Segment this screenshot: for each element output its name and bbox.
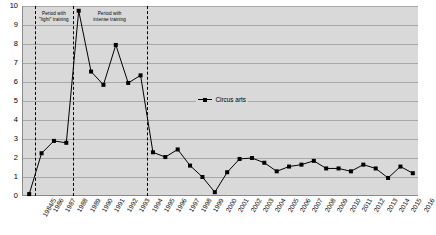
data-point-marker [176, 147, 180, 151]
data-point-marker [349, 169, 353, 173]
y-axis-tick-label: 5 [14, 97, 18, 105]
data-point-marker [163, 155, 167, 159]
data-point-marker [188, 164, 192, 168]
y-axis-tick-label: 3 [14, 135, 18, 143]
x-axis-tick-label: 2008 [323, 197, 336, 213]
data-point-marker [386, 176, 390, 180]
data-point-marker [324, 166, 328, 170]
x-axis-tick-label: 2015 [410, 197, 423, 213]
legend-marker-icon [198, 99, 212, 100]
data-point-marker [238, 157, 242, 161]
data-point-marker [299, 163, 303, 167]
x-axis-tick-label: 1993 [138, 197, 151, 213]
x-axis-tick-label: 1988 [76, 197, 89, 213]
y-axis: 012345678910 [0, 6, 20, 196]
x-axis-tick-label: 2002 [249, 197, 262, 213]
x-axis-tick-label: 2003 [261, 197, 274, 213]
data-point-marker [225, 170, 229, 174]
data-point-marker [262, 161, 266, 165]
data-point-marker [374, 166, 378, 170]
data-point-marker [151, 150, 155, 154]
x-axis-tick-label: 2014 [397, 197, 410, 213]
y-axis-tick-label: 9 [14, 21, 18, 29]
data-point-marker [139, 73, 143, 77]
x-axis-tick-label: 2009 [336, 197, 349, 213]
x-axis-tick-label: 1996 [175, 197, 188, 213]
data-point-marker [250, 156, 254, 160]
data-point-marker [398, 165, 402, 169]
x-axis-tick-label: 1989 [88, 197, 101, 213]
legend: Circus arts [196, 95, 248, 104]
y-axis-tick-label: 0 [14, 192, 18, 200]
x-axis-tick-label: 1997 [187, 197, 200, 213]
data-point-marker [361, 163, 365, 167]
legend-label-circus-arts: Circus arts [215, 96, 246, 103]
data-point-marker [89, 70, 93, 74]
data-point-marker [64, 141, 68, 145]
data-point-marker [200, 175, 204, 179]
x-axis-tick-label: 2010 [348, 197, 361, 213]
x-axis-tick-label: 2004 [274, 197, 287, 213]
data-point-marker [287, 165, 291, 169]
annotation-light-training: Period with "light" training [35, 11, 72, 23]
data-point-marker [411, 171, 415, 175]
x-axis-tick-label: 1992 [125, 197, 138, 213]
data-point-marker [40, 151, 44, 155]
data-point-marker [312, 159, 316, 163]
x-axis-tick-label: 2012 [373, 197, 386, 213]
data-point-marker [101, 83, 105, 87]
x-axis-tick-label: 1994 [150, 197, 163, 213]
x-axis-tick-label: 1998 [199, 197, 212, 213]
x-axis-tick-label: 2001 [237, 197, 250, 213]
x-axis-tick-label: 1995 [162, 197, 175, 213]
x-axis-tick-label: 2005 [286, 197, 299, 213]
y-axis-tick-label: 7 [14, 59, 18, 67]
data-point-marker [126, 81, 130, 85]
y-axis-tick-label: 2 [14, 154, 18, 162]
data-point-marker [52, 139, 56, 143]
x-axis-tick-label: 1987 [63, 197, 76, 213]
x-axis-tick-label: 1991 [113, 197, 126, 213]
x-axis-tick-label: 2013 [385, 197, 398, 213]
x-axis-tick-label: 2016 [422, 197, 435, 213]
x-axis-tick-label: 1999 [212, 197, 225, 213]
x-axis-tick-label: 2007 [311, 197, 324, 213]
x-axis: 1984/51986198719881989199019911992199319… [22, 197, 418, 235]
x-axis-tick-label: 1990 [100, 197, 113, 213]
x-axis-tick-label: 2006 [298, 197, 311, 213]
y-axis-tick-label: 1 [14, 173, 18, 181]
data-point-marker [27, 192, 31, 196]
y-axis-tick-label: 4 [14, 116, 18, 124]
y-axis-tick-label: 6 [14, 78, 18, 86]
annotation-intense-training: Period with intense training [73, 11, 147, 23]
data-point-marker [213, 190, 217, 194]
data-point-marker [275, 169, 279, 173]
data-point-marker [114, 43, 118, 47]
plot-area: Period with "light" training Period with… [22, 6, 418, 196]
y-axis-tick-label: 10 [10, 2, 18, 10]
x-axis-tick-label: 2000 [224, 197, 237, 213]
y-axis-tick-label: 8 [14, 40, 18, 48]
data-point-marker [337, 166, 341, 170]
